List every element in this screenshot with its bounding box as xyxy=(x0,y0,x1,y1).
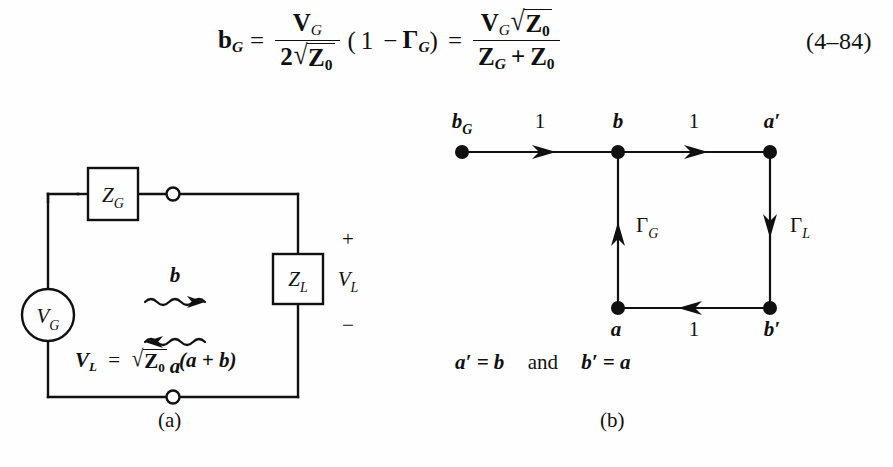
equation-expression: bG = VG 2√Z0 ( 1 − ΓG ) = VG√Z0 ZG+Z0 xyxy=(218,8,564,74)
terminal-top xyxy=(167,188,180,201)
wave-arrow-forward xyxy=(145,296,205,308)
sublabel-figure-a: (a) xyxy=(158,408,181,433)
node-a xyxy=(611,301,625,315)
paren-close: ) xyxy=(430,27,438,55)
node-label-a: a xyxy=(611,317,622,341)
edge-weight-bG-b: 1 xyxy=(535,109,546,133)
edge-weight-b-aprime: 1 xyxy=(689,109,700,133)
node-label-bG: bG xyxy=(452,109,473,137)
node-label-b-prime: b′ xyxy=(764,317,780,341)
node-label-a-prime: a′ xyxy=(764,109,780,133)
numeral-one: 1 xyxy=(361,27,374,55)
fraction-second-denominator: ZG+Z0 xyxy=(473,41,560,73)
sqrt-icon: √ xyxy=(293,42,307,68)
load-voltage-label: VL xyxy=(338,267,359,295)
caption-figure-b: a′ = b and b′ = a xyxy=(455,350,631,375)
caption-figure-a: VL = √Z0 (a + b) xyxy=(75,348,236,375)
equals-sign-2: = xyxy=(448,27,462,55)
node-label-b: b xyxy=(613,109,624,133)
edge-weight-gamma-L: ΓL xyxy=(790,213,810,241)
fraction-second: VG√Z0 ZG+Z0 xyxy=(473,9,560,74)
figure-page: bG = VG 2√Z0 ( 1 − ΓG ) = VG√Z0 ZG+Z0 (4… xyxy=(0,0,893,467)
sublabel-figure-b: (b) xyxy=(600,408,625,433)
node-bG xyxy=(455,145,469,159)
gamma-g-term: ΓG xyxy=(402,26,429,56)
figure-a-circuit: ZG ZL VG b a + VL − xyxy=(0,90,400,340)
edge-weight-bprime-a: 1 xyxy=(689,317,700,341)
terminal-bottom xyxy=(167,391,180,404)
wave-forward-label: b xyxy=(170,263,181,287)
caption-b-conjunction: and xyxy=(528,350,558,374)
fraction-second-numerator: VG√Z0 xyxy=(476,9,557,40)
plus-sign-label: + xyxy=(342,227,354,251)
wave-reverse-arrowhead xyxy=(145,336,163,348)
edge-weight-gamma-G: ΓG xyxy=(636,213,658,241)
sqrt-icon-2: √ xyxy=(511,8,525,34)
minus-sign: − xyxy=(383,27,397,55)
caption-b-right: b′ = a xyxy=(581,350,630,374)
node-b xyxy=(611,145,625,159)
flowgraph-svg: bG b a′ a b′ 1 1 1 ΓL ΓG xyxy=(400,90,893,340)
minus-sign-label: − xyxy=(342,313,354,337)
sqrt-icon-caption: √ xyxy=(132,348,144,370)
circuit-svg: ZG ZL VG b a + VL − xyxy=(0,90,400,340)
fraction-first: VG 2√Z0 xyxy=(275,9,339,73)
equation-number: (4–84) xyxy=(806,28,872,55)
fraction-first-denominator: 2√Z0 xyxy=(275,41,339,73)
wave-forward-arrowhead xyxy=(187,296,205,308)
node-a-prime xyxy=(763,145,777,159)
caption-b-left: a′ = b xyxy=(455,350,504,374)
paren-open: ( xyxy=(348,27,356,55)
wave-arrow-reverse xyxy=(145,336,205,348)
fraction-first-numerator: VG xyxy=(288,9,327,40)
node-b-prime xyxy=(763,301,777,315)
display-equation: bG = VG 2√Z0 ( 1 − ΓG ) = VG√Z0 ZG+Z0 (4… xyxy=(0,6,893,80)
figure-b-flowgraph: bG b a′ a b′ 1 1 1 ΓL ΓG xyxy=(400,90,893,340)
equation-lhs: bG xyxy=(218,26,243,56)
equals-sign-1: = xyxy=(250,27,264,55)
